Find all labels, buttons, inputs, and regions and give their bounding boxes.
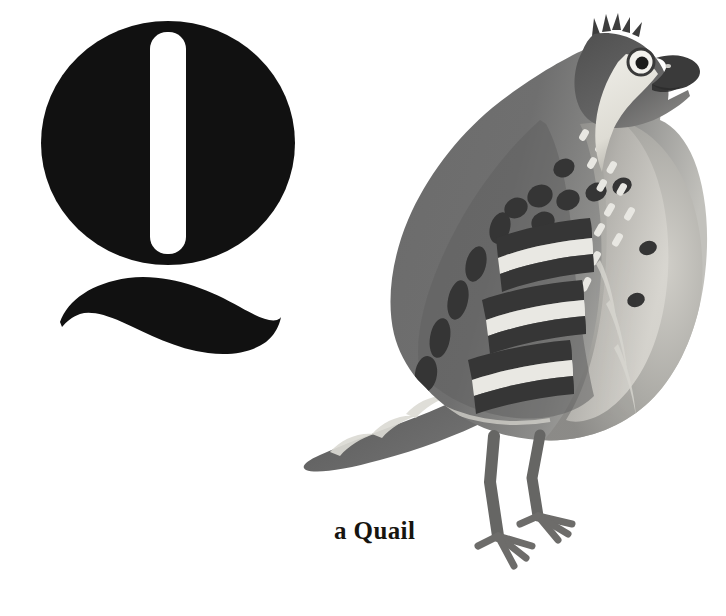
letter-q-tail [60,277,281,354]
illustration-page: a Quail [0,0,726,616]
quail-nostril [665,64,671,68]
letter-q-svg [0,0,340,380]
letter-q-graphic [0,0,340,380]
quail-leg-far [532,435,540,516]
quail-eye [636,57,649,70]
letter-q-counter [150,32,186,254]
caption-a-quail: a Quail [334,515,534,547]
